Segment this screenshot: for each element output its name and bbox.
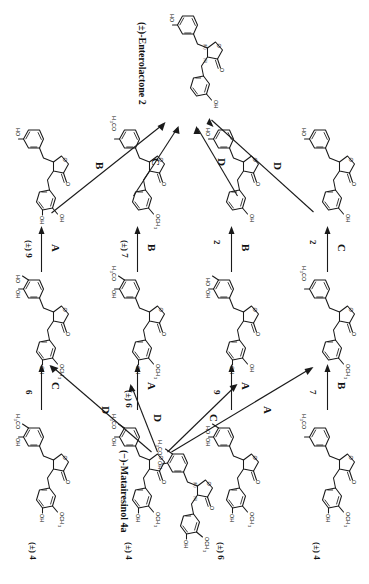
compound-label-r3-c3: (±) 4 [123,542,133,560]
compound-node-r2-c1[interactable]: O O HO OH [193,128,265,236]
svg-text:OH: OH [38,514,44,522]
svg-text:3: 3 [57,377,61,379]
svg-text:OH: OH [110,290,116,298]
svg-text:3: 3 [153,377,157,379]
svg-text:OCH: OCH [58,512,64,524]
svg-text:O: O [350,182,356,186]
svg-text:O: O [252,456,258,460]
step-label-mid-r2: B [239,244,251,251]
svg-text:OH: OH [228,514,234,522]
svg-text:OCH: OCH [154,512,160,524]
svg-text:3: 3 [153,525,157,527]
svg-text:OCH: OCH [154,364,160,376]
svg-text:O: O [158,456,164,460]
compound-label-r2-c1: 2 [211,240,221,245]
svg-text:HO: HO [14,275,20,283]
compound-node-r4-c2[interactable]: O O HO OH OCH3 OH [3,278,75,386]
compound-node-r3-c3[interactable]: O O H3CO OH OCH3 OH [99,426,171,538]
compound-node-r2-c3[interactable]: O O HO OH OCH3 OH [193,426,265,538]
step-label-bot-3: D [151,414,163,422]
svg-text:HO: HO [300,128,306,136]
svg-text:H: H [110,116,116,120]
compound-node-r1-c2[interactable]: O O H3CO OCH3 [289,278,361,386]
svg-text:OH: OH [324,514,330,522]
compound-node-r4-c1[interactable]: O O HO OH OH [3,128,75,236]
compound-node-r3-c1[interactable]: O O H3CO OCH3 [99,128,171,236]
compound-label-r1-c2: 7 [307,390,317,395]
step-label-mid-r4: A [49,244,61,252]
svg-text:OH: OH [344,214,350,222]
svg-text:O: O [64,480,70,484]
compound-node-r3-c2[interactable]: O O H3CO OH OCH3 OH [99,278,171,386]
svg-text:O: O [350,332,356,336]
compound-label-r4-c1: (±) 9 [23,240,33,258]
svg-text:OCH: OCH [58,364,64,376]
scheme-page: O O (R) (S) HO OH [0,0,369,584]
svg-text:OH: OH [58,214,64,222]
svg-text:CO: CO [110,273,116,281]
svg-text:CO: CO [110,123,116,131]
step-label-bot-2: C [207,414,219,422]
svg-text:O: O [62,308,68,312]
step-label-bot-4: D [99,406,111,414]
svg-text:3: 3 [343,525,347,527]
svg-text:3: 3 [57,525,61,527]
svg-text:OH: OH [248,364,254,372]
svg-text:OH: OH [248,214,254,222]
svg-text:OH: OH [14,438,20,446]
svg-text:OCH: OCH [248,512,254,524]
compound-node-r1-c1[interactable]: O O HO OH [289,128,361,236]
svg-text:O: O [254,332,260,336]
svg-text:CO: CO [300,421,306,429]
svg-text:HO: HO [204,426,210,434]
svg-text:OH: OH [134,514,140,522]
svg-text:O: O [252,158,258,162]
svg-text:O: O [348,308,354,312]
svg-text:CO: CO [14,421,20,429]
svg-text:HO: HO [204,278,210,286]
compound-label-r3-c2: (±) 6 [123,390,133,408]
svg-text:OH: OH [38,216,44,224]
svg-text:3: 3 [153,227,157,229]
svg-text:O: O [62,456,68,460]
svg-text:O: O [160,480,166,484]
svg-text:O: O [160,332,166,336]
compound-label-r2-c3: (±) 6 [215,542,225,560]
scheme-canvas: O O (R) (S) HO OH [0,0,369,584]
svg-text:OH: OH [228,366,234,374]
compound-label-r1-c1: 2 [307,240,317,245]
step-label-bot-1: A [261,406,273,414]
step-label-top-1: D [271,162,283,170]
svg-text:3: 3 [247,525,251,527]
step-label-mid-r3: B [145,244,157,251]
svg-text:HO: HO [204,128,210,136]
svg-text:O: O [348,158,354,162]
svg-text:O: O [160,182,166,186]
svg-text:O: O [158,158,164,162]
svg-text:O: O [350,480,356,484]
svg-text:OCH: OCH [154,214,160,226]
svg-text:H: H [110,266,116,270]
svg-text:H: H [300,414,306,418]
svg-text:O: O [64,332,70,336]
svg-text:H: H [14,414,20,418]
compound-node-r4-c3[interactable]: O O H3CO OH OCH3 OH [3,426,75,538]
step-label-mid-r1: C [335,244,347,252]
compound-node-r2-c2[interactable]: O O HO OH OH OH [193,278,265,386]
compound-label-r4-c2: 6 [23,390,33,395]
svg-text:OH: OH [204,290,210,298]
svg-text:O: O [254,182,260,186]
svg-text:HO: HO [14,128,20,136]
svg-text:OH: OH [204,438,210,446]
compound-label-r2-c2: 9 [211,390,221,395]
svg-text:O: O [158,308,164,312]
svg-text:OH: OH [110,438,116,446]
svg-text:O: O [348,456,354,460]
svg-text:CO: CO [300,273,306,281]
compound-node-r1-c3[interactable]: O O H3CO OCH3 OH [289,426,361,538]
svg-text:OCH: OCH [344,512,350,524]
compound-label-r3-c1: (±) 7 [119,240,129,258]
svg-text:OH: OH [38,366,44,374]
svg-text:H: H [110,414,116,418]
svg-text:O: O [62,158,68,162]
